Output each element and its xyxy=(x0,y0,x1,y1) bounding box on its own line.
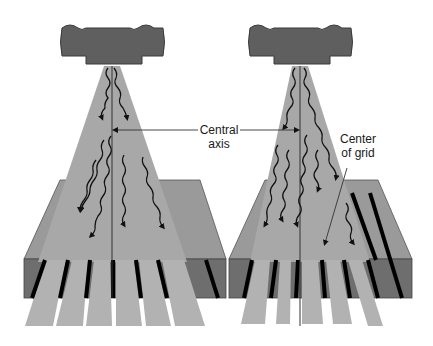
right-xray-tube xyxy=(249,25,353,64)
center-of-grid-label-line1: Center xyxy=(340,132,376,146)
right-panel xyxy=(229,25,412,326)
left-panel xyxy=(24,25,226,326)
central-axis-label-line2: axis xyxy=(208,137,229,151)
central-axis-label-line1: Central xyxy=(200,123,239,137)
diagram-canvas: Central axis Center of grid xyxy=(0,0,433,346)
center-of-grid-callout: Center of grid xyxy=(340,132,376,160)
left-xray-tube xyxy=(61,25,165,64)
right-transmitted-beams xyxy=(241,260,383,326)
center-of-grid-label-line2: of grid xyxy=(341,146,374,160)
